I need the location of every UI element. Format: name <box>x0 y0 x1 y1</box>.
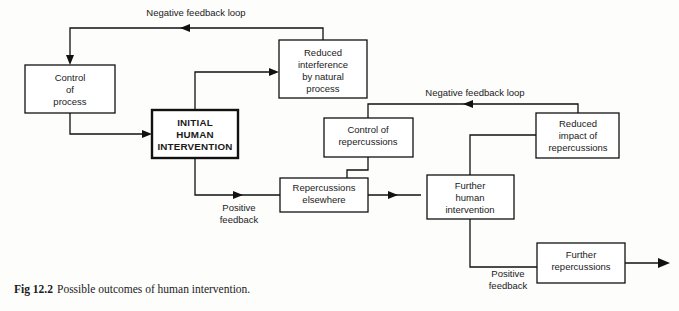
edge-repercussions-to-further-human <box>368 191 421 199</box>
flow-diagram: Control of process INITIAL HUMAN INTERVE… <box>0 0 679 311</box>
node-label-line-1: Control <box>55 72 86 83</box>
node-label-line-1: Further <box>566 249 597 260</box>
node-further-human-intervention[interactable]: Further human intervention <box>427 175 514 219</box>
node-further-repercussions[interactable]: Further repercussions <box>537 243 625 283</box>
node-label-line-2: HUMAN <box>176 129 213 140</box>
node-label-line-3: INTERVENTION <box>157 141 232 152</box>
edge-further-human-to-reduced-impact <box>470 135 536 175</box>
node-label-line-3: intervention <box>445 204 494 215</box>
arrowhead-down <box>66 55 74 65</box>
node-label-line-3: by natural <box>302 71 344 82</box>
figure-caption: Fig 12.2Possible outcomes of human inter… <box>14 283 250 295</box>
node-repercussions-elsewhere[interactable]: Repercussions elsewhere <box>280 178 368 212</box>
node-control-of-process[interactable]: Control of process <box>25 65 115 113</box>
arrowhead-left <box>463 100 473 108</box>
node-label-line-2: human <box>455 192 484 203</box>
label-positive-feedback-left-line-2: feedback <box>220 214 259 225</box>
node-reduced-interference[interactable]: Reduced interference by natural process <box>279 40 367 98</box>
node-label-line-2: elsewhere <box>302 194 345 205</box>
node-label-line-4: process <box>306 83 340 94</box>
node-reduced-impact[interactable]: Reduced impact of repercussions <box>536 113 619 158</box>
edge-further-human-to-further-repercussions <box>470 219 537 267</box>
node-label-line-2: repercussions <box>338 136 397 147</box>
edge-initial-to-reduced-interference <box>195 68 279 110</box>
figure-number: Fig 12.2 <box>14 283 53 295</box>
label-negative-feedback-right: Negative feedback loop <box>425 87 524 98</box>
node-label-line-3: process <box>53 96 87 107</box>
arrowhead-right <box>388 191 398 199</box>
node-label-line-1: INITIAL <box>177 117 213 128</box>
edge-further-repercussions-out <box>625 258 670 268</box>
label-negative-feedback-top: Negative feedback loop <box>146 7 245 18</box>
node-label-line-1: Further <box>455 180 486 191</box>
node-initial-human-intervention[interactable]: INITIAL HUMAN INTERVENTION <box>152 110 238 158</box>
node-label-line-1: Repercussions <box>293 182 356 193</box>
edge-control-to-initial <box>70 113 152 138</box>
node-label-line-3: repercussions <box>548 142 607 153</box>
edge-control-repercussions-to-repercussions <box>347 157 368 178</box>
label-positive-feedback-bottom-line-2: feedback <box>489 280 528 291</box>
label-positive-feedback-bottom-line-1: Positive <box>491 268 524 279</box>
node-label-line-2: impact of <box>559 130 598 141</box>
label-positive-feedback-left-line-1: Positive <box>222 202 255 213</box>
arrowhead-right <box>658 258 670 268</box>
arrowhead-left <box>180 24 190 32</box>
figure-page: Control of process INITIAL HUMAN INTERVE… <box>0 0 679 311</box>
arrowhead-right <box>233 191 243 199</box>
node-label-line-1: Control of <box>347 124 389 135</box>
arrowhead-right <box>142 130 152 138</box>
arrowhead-right <box>269 68 279 76</box>
node-label-line-2: repercussions <box>551 261 610 272</box>
node-label-line-2: of <box>66 84 74 95</box>
node-label-line-1: Reduced <box>559 118 597 129</box>
edge-initial-to-repercussions <box>195 158 280 199</box>
node-control-of-repercussions[interactable]: Control of repercussions <box>324 118 413 157</box>
node-label-line-1: Reduced <box>304 47 342 58</box>
figure-caption-text: Possible outcomes of human intervention. <box>57 283 250 295</box>
node-label-line-2: interference <box>298 59 348 70</box>
